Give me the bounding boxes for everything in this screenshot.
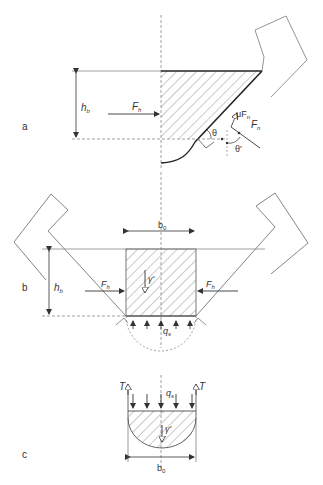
weight-label-b: γ' <box>148 274 155 284</box>
panel-c: T T qs γ' b0 c <box>22 375 206 474</box>
height-label-b: hb <box>54 282 64 294</box>
panel-label-b: b <box>22 282 28 293</box>
soil-block-b <box>126 249 196 316</box>
figure: hb Fh a θ μFn Fn θ' <box>0 0 323 485</box>
angle-theta-prime-label: θ' <box>235 144 242 154</box>
force-fh-right-label: Fh <box>206 279 216 290</box>
height-label-a: hb <box>81 102 91 114</box>
blade-left-b <box>14 194 126 316</box>
angle-theta-label: θ <box>212 128 217 138</box>
bucket-curve-a <box>161 142 195 163</box>
tension-left-label: T <box>119 381 126 392</box>
pressure-label-b: qs <box>163 326 171 337</box>
panel-b: b0 hb b Fh Fh γ' qs <box>14 172 308 351</box>
panel-label-a: a <box>22 121 28 132</box>
blade-a <box>255 16 307 97</box>
pressure-label-c: qs <box>166 388 174 399</box>
panel-label-c: c <box>22 449 27 460</box>
force-fn-label: Fn <box>251 119 261 131</box>
diagram-canvas: hb Fh a θ μFn Fn θ' <box>0 0 323 485</box>
weight-label-c: γ' <box>165 424 172 434</box>
width-label-c: b0 <box>157 463 166 474</box>
panel-a: hb Fh a θ μFn Fn θ' <box>22 15 307 170</box>
blade-right-b <box>196 193 308 316</box>
force-fh-left-label: Fh <box>101 279 111 290</box>
force-fh-label-a: Fh <box>132 101 142 113</box>
width-label-b: b0 <box>158 220 167 231</box>
tension-right-label: T <box>199 381 206 392</box>
friction-label: μFn <box>236 109 250 120</box>
